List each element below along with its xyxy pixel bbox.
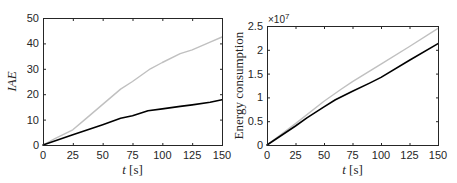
energy-y-tick-label: 1	[257, 91, 263, 103]
iae-ticks: 025507510012515001020304050	[27, 12, 231, 161]
energy-axis-multiplier: ×107	[268, 12, 290, 25]
iae-series-black-line	[43, 100, 222, 145]
iae-y-tick-label: 30	[27, 63, 39, 75]
iae-y-tick-label: 40	[27, 37, 39, 49]
energy-x-tick-label: 50	[318, 149, 330, 161]
energy-y-tick-label: 2.5	[248, 20, 263, 32]
energy-x-tick-label: 125	[400, 149, 418, 161]
iae-x-tick-label: 150	[213, 149, 231, 161]
energy-x-axis-label: t [s]	[342, 162, 363, 177]
iae-y-tick-label: 20	[27, 88, 39, 100]
energy-y-tick-label: 0.5	[248, 115, 263, 127]
energy-series-black-line	[267, 44, 438, 145]
iae-x-tick-label: 100	[153, 149, 171, 161]
energy-x-tick-label: 25	[289, 149, 301, 161]
iae-series-gray-line	[43, 37, 222, 145]
energy-series-layer	[267, 28, 438, 145]
energy-x-tick-label: 0	[264, 149, 270, 161]
energy-x-tick-label: 150	[429, 149, 447, 161]
energy-y-tick-label: 0	[257, 139, 263, 151]
iae-y-tick-label: 0	[33, 139, 39, 151]
energy-chart: 025507510012515000.511.522.5 Energy cons…	[231, 12, 447, 177]
energy-y-tick-label: 1.5	[248, 68, 263, 80]
iae-y-tick-label: 10	[27, 114, 39, 126]
iae-series-layer	[43, 37, 222, 145]
iae-x-tick-label: 125	[183, 149, 201, 161]
energy-y-tick-label: 2	[257, 44, 263, 56]
iae-y-axis-label: IAE	[4, 71, 19, 92]
figure: 025507510012515001020304050 IAE t [s] 02…	[0, 0, 457, 183]
iae-x-tick-label: 25	[67, 149, 79, 161]
iae-chart: 025507510012515001020304050 IAE t [s]	[4, 12, 231, 177]
iae-x-axis-label: t [s]	[122, 162, 143, 177]
iae-y-tick-label: 50	[27, 12, 39, 24]
energy-x-tick-label: 100	[372, 149, 390, 161]
energy-x-tick-label: 75	[346, 149, 358, 161]
energy-y-axis-label: Energy consumption	[231, 31, 246, 139]
iae-x-tick-label: 75	[126, 149, 138, 161]
iae-x-tick-label: 0	[40, 149, 46, 161]
iae-x-tick-label: 50	[97, 149, 109, 161]
